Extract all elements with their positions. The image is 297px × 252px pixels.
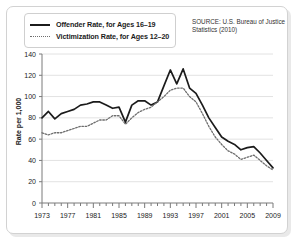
x-axis-ticks: 1973197719811985198919931997200120052009 xyxy=(34,203,281,219)
legend-item-victimization: Victimization Rate, for Ages 12–20 xyxy=(30,31,170,42)
x-tick-label: 1997 xyxy=(188,212,204,219)
legend-label-offender: Offender Rate, for Ages 16–19 xyxy=(56,20,156,29)
y-tick-label: 60 xyxy=(28,136,36,143)
y-axis-label: Rate per 1,000 xyxy=(15,82,22,162)
y-axis-ticks: 020406080100120140 xyxy=(24,51,42,207)
y-tick-label: 80 xyxy=(28,114,36,121)
y-tick-label: 120 xyxy=(24,72,36,79)
legend-item-offender: Offender Rate, for Ages 16–19 xyxy=(30,19,170,30)
figure-container: Offender Rate, for Ages 16–19 Victimizat… xyxy=(0,0,297,252)
series-line-offender xyxy=(42,69,273,168)
y-tick-label: 40 xyxy=(28,157,36,164)
legend-swatch-dotted-icon xyxy=(30,32,50,41)
x-tick-label: 1977 xyxy=(60,212,76,219)
y-tick-label: 20 xyxy=(28,178,36,185)
x-tick-label: 1973 xyxy=(34,212,50,219)
x-tick-label: 2005 xyxy=(240,212,256,219)
x-tick-label: 2009 xyxy=(265,212,281,219)
y-tick-label: 100 xyxy=(24,93,36,100)
x-tick-label: 2001 xyxy=(214,212,230,219)
x-tick-label: 1985 xyxy=(111,212,127,219)
source-note: SOURCE: U.S. Bureau of Justice Statistic… xyxy=(192,18,288,34)
legend-swatch-solid-icon xyxy=(30,20,50,29)
legend-label-victimization: Victimization Rate, for Ages 12–20 xyxy=(56,32,169,41)
gridlines xyxy=(42,54,273,182)
y-tick-label: 140 xyxy=(24,51,36,58)
y-tick-label: 0 xyxy=(32,200,36,207)
x-tick-label: 1993 xyxy=(163,212,179,219)
x-tick-label: 1989 xyxy=(137,212,153,219)
chart-legend: Offender Rate, for Ages 16–19 Victimizat… xyxy=(24,13,176,48)
x-tick-label: 1981 xyxy=(86,212,102,219)
